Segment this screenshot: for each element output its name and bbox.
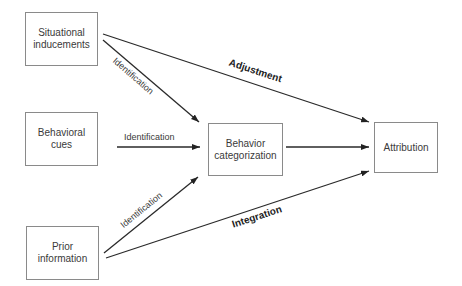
node-label-line: cues (38, 139, 85, 151)
node-label-line: Behavior (214, 138, 276, 150)
node-prior-information: Prior information (26, 226, 99, 280)
node-label-line: Attribution (383, 142, 428, 154)
node-label-line: inducements (33, 39, 90, 51)
edge-integration (106, 171, 369, 258)
edge-situational-identification (103, 40, 199, 122)
node-label-line: Prior (38, 241, 87, 253)
node-attribution: Attribution (374, 122, 438, 173)
node-label-line: categorization (214, 150, 276, 162)
node-behavioral-cues: Behavioral cues (25, 112, 98, 166)
edge-prior-identification (104, 177, 198, 253)
node-label-line: Behavioral (38, 127, 85, 139)
node-label-line: information (38, 253, 87, 265)
edge-label-behavioral-identification: Identification (124, 132, 175, 142)
node-situational-inducements: Situational inducements (25, 12, 98, 66)
node-label-line: Situational (33, 27, 90, 39)
node-behavior-categorization: Behavior categorization (208, 123, 283, 176)
